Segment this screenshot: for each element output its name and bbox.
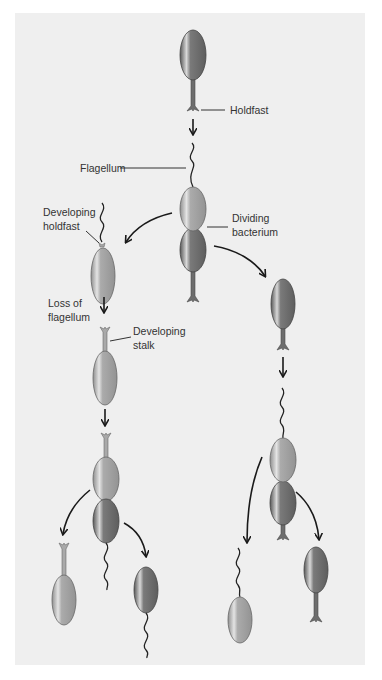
arrow-right-child-a	[247, 457, 262, 542]
left-child-swarmer	[134, 567, 158, 613]
arrow-to-swarmer	[126, 213, 172, 242]
caulobacter-life-cycle-diagram: Holdfast Flagellum Dividing bacterium De…	[0, 0, 382, 680]
arrow-right-child-b	[296, 492, 319, 539]
dividing-bacterium	[180, 187, 206, 302]
label-dev-holdfast-2: holdfast	[43, 220, 80, 232]
label-dividing-2: bacterium	[232, 226, 278, 238]
dev-holdfast-leader	[86, 231, 99, 243]
right-child-stalked	[304, 547, 328, 622]
arrow-to-stalked	[214, 246, 265, 276]
label-dev-stalk-1: Developing	[133, 325, 186, 337]
right-stalked-cell	[271, 279, 295, 350]
label-flagellum: Flagellum	[80, 162, 126, 174]
label-dev-stalk-2: stalk	[133, 339, 155, 351]
right-child-swarmer	[228, 597, 252, 643]
left-dividing-cell	[93, 433, 119, 543]
flagellum-right-child	[236, 548, 240, 597]
flagellum-swarmer	[100, 203, 103, 242]
flagellum-dividing	[190, 143, 193, 187]
label-dividing-1: Dividing	[232, 212, 270, 224]
developing-stalk-cell	[93, 327, 117, 405]
swarmer-cell	[91, 243, 115, 304]
label-dev-holdfast-1: Developing	[43, 206, 96, 218]
flagellum-left-child	[144, 613, 148, 658]
flagellum-right-dividing	[280, 388, 284, 438]
dev-stalk-leader	[110, 337, 131, 341]
arrow-left-child-a	[63, 490, 90, 534]
arrow-left-child-b	[124, 523, 146, 556]
label-holdfast: Holdfast	[230, 104, 269, 116]
flagellum-left-dividing	[104, 543, 108, 590]
label-loss-1: Loss of	[48, 297, 82, 309]
stalked-cell-top	[180, 30, 206, 111]
left-child-stalked	[52, 543, 76, 625]
right-dividing-cell	[270, 438, 296, 540]
label-loss-2: flagellum	[48, 311, 90, 323]
